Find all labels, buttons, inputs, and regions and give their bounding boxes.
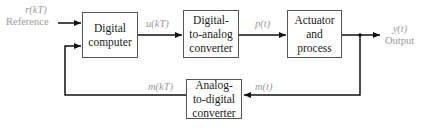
digital-computer-block: Digital computer	[82, 12, 138, 58]
m-kT-signal-label: m(kT)	[148, 81, 173, 93]
output-label: Output	[385, 35, 414, 47]
reference-symbol: r(kT)	[18, 4, 54, 16]
actuator-process-block: Actuator and process	[287, 10, 342, 58]
block-text: and	[306, 27, 323, 41]
block-text: converter	[192, 106, 235, 120]
block-text: computer	[88, 35, 131, 49]
block-text: Analog-	[195, 78, 233, 92]
block-text: Actuator	[294, 13, 334, 27]
block-text: Digital	[94, 21, 126, 35]
block-text: to-digital	[193, 92, 235, 106]
p-signal-label: p(t)	[255, 18, 270, 30]
block-text: converter	[189, 41, 232, 55]
u-signal-label: u(kT)	[146, 18, 169, 30]
block-text: to-analog	[189, 27, 232, 41]
m-t-signal-label: m(t)	[255, 81, 273, 93]
adc-block: Analog- to-digital converter	[186, 79, 242, 119]
dac-block: Digital- to-analog converter	[183, 10, 239, 58]
reference-label: Reference	[6, 16, 49, 28]
output-symbol: y(t)	[385, 23, 415, 35]
block-text: Digital-	[193, 13, 229, 27]
block-text: process	[297, 41, 332, 55]
